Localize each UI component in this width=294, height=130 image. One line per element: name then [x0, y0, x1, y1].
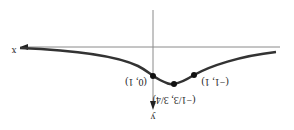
point-label-neg1-1: (−1, 1): [201, 76, 228, 88]
point-0-1: [150, 73, 156, 79]
point-min: [171, 81, 177, 87]
graph-canvas: x y (0, 1) (−1/3, 3/4) (−1, 1): [0, 0, 294, 130]
point-label-min: (−1/3, 3/4): [153, 94, 196, 106]
function-curve: [20, 48, 276, 84]
point-neg1-1: [191, 72, 197, 78]
x-axis-label: x: [12, 46, 17, 57]
point-label-0-1: (0, 1): [125, 76, 147, 88]
y-axis-label: y: [151, 112, 156, 123]
